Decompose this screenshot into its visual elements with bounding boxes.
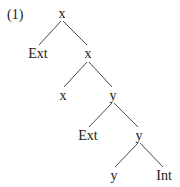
tree-node-y-leaf: y — [111, 169, 118, 183]
tree-edge — [64, 62, 87, 87]
tree-node-y-2: y — [136, 129, 143, 143]
tree-edge — [39, 21, 61, 45]
tree-edge — [89, 103, 112, 127]
tree-edge — [114, 103, 138, 127]
tree-edge — [63, 21, 87, 45]
tree-node-ext-2: Ext — [78, 129, 97, 143]
tree-edge — [115, 143, 138, 167]
tree-edge — [89, 62, 112, 87]
tree-node-y-1: y — [110, 89, 117, 103]
syntax-tree-diagram: (1) x Ext x x y Ext y y Int — [0, 0, 180, 187]
tree-edge — [140, 143, 163, 167]
tree-edges — [0, 0, 180, 187]
tree-node-x-2: x — [85, 47, 92, 61]
tree-node-int: Int — [156, 169, 172, 183]
tree-node-root-x: x — [59, 7, 66, 21]
tree-node-x-leaf: x — [60, 89, 67, 103]
tree-node-ext-1: Ext — [28, 47, 47, 61]
